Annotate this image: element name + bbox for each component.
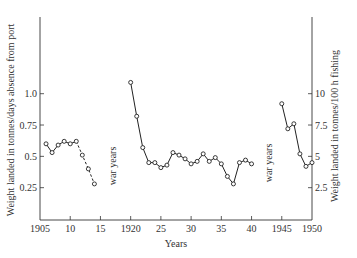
y-ticks-right: 2.557.510 xyxy=(308,88,328,193)
data-point-marker xyxy=(135,114,139,118)
data-point-marker xyxy=(141,146,145,150)
x-tick-label: 15 xyxy=(95,223,105,234)
data-point-marker xyxy=(86,167,90,171)
data-point-marker xyxy=(207,159,211,163)
data-point-marker xyxy=(195,159,199,163)
data-point-marker xyxy=(292,122,296,126)
data-point-marker xyxy=(44,142,48,146)
series-line xyxy=(282,104,312,167)
data-point-marker xyxy=(50,151,54,155)
series-line-dashed xyxy=(76,141,94,184)
y-tick-label-right: 5 xyxy=(315,151,320,162)
data-point-marker xyxy=(74,139,78,143)
x-tick-label: 30 xyxy=(186,223,196,234)
axes xyxy=(40,17,312,220)
data-point-marker xyxy=(62,139,66,143)
x-tick-label: 40 xyxy=(247,223,257,234)
y-tick-label-left: 1.0 xyxy=(25,88,38,99)
x-ticks: 1905101519202530354019451950 xyxy=(30,216,322,234)
series-2 xyxy=(129,80,254,185)
data-point-marker xyxy=(92,182,96,186)
x-tick-label: 35 xyxy=(216,223,226,234)
data-point-marker xyxy=(153,161,157,165)
y-tick-label-left: 0.5 xyxy=(25,151,38,162)
data-point-marker xyxy=(298,152,302,156)
x-tick-label: 10 xyxy=(65,223,75,234)
x-tick-label: 1950 xyxy=(302,223,322,234)
data-point-marker xyxy=(231,182,235,186)
data-point-marker xyxy=(165,163,169,167)
data-point-marker xyxy=(177,153,181,157)
data-point-marker xyxy=(250,162,254,166)
data-point-marker xyxy=(171,151,175,155)
data-point-marker xyxy=(244,158,248,162)
data-point-marker xyxy=(189,162,193,166)
x-tick-label: 25 xyxy=(156,223,166,234)
data-point-marker xyxy=(304,164,308,168)
y-tick-label-right: 7.5 xyxy=(315,120,328,131)
data-point-marker xyxy=(68,142,72,146)
series-3 xyxy=(280,102,314,169)
x-tick-label: 1945 xyxy=(272,223,292,234)
war-years-label-1: war years xyxy=(107,147,118,186)
fish-landings-chart: 1905101519202530354019451950 0.250.50.75… xyxy=(0,0,357,258)
series-line xyxy=(131,82,252,183)
x-axis-label: Years xyxy=(165,238,187,249)
data-point-marker xyxy=(159,166,163,170)
data-point-marker xyxy=(183,157,187,161)
y-axis-label-right: Weight landed in tonnes/100 h fishing xyxy=(329,50,340,202)
data-point-marker xyxy=(147,161,151,165)
data-point-marker xyxy=(237,161,241,165)
data-point-marker xyxy=(310,161,314,165)
x-tick-label: 1905 xyxy=(30,223,50,234)
data-point-marker xyxy=(213,156,217,160)
data-point-marker xyxy=(219,162,223,166)
data-point-marker xyxy=(56,143,60,147)
series-1 xyxy=(44,139,96,186)
data-point-marker xyxy=(280,102,284,106)
war-years-label-2: war years xyxy=(263,144,274,183)
data-point-marker xyxy=(201,152,205,156)
y-tick-label-right: 10 xyxy=(315,88,325,99)
y-axis-label-left: Weight landed in tonnes/days absence fro… xyxy=(5,24,16,217)
data-point-marker xyxy=(80,153,84,157)
data-point-marker xyxy=(225,174,229,178)
y-tick-label-left: 0.25 xyxy=(20,182,38,193)
x-tick-label: 1920 xyxy=(121,223,141,234)
data-point-marker xyxy=(129,80,133,84)
y-tick-label-right: 2.5 xyxy=(315,182,328,193)
y-tick-label-left: 0.75 xyxy=(20,120,38,131)
data-point-marker xyxy=(286,127,290,131)
